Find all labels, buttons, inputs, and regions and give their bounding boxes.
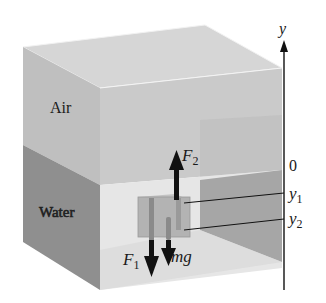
back-wall-air bbox=[200, 115, 282, 180]
block-inner-bar-left bbox=[149, 198, 154, 240]
f1-subscript: 1 bbox=[133, 258, 139, 272]
y1-label: y1 bbox=[287, 184, 303, 206]
f2-subscript: 2 bbox=[192, 154, 198, 168]
y2-label: y2 bbox=[287, 209, 303, 231]
origin-label: 0 bbox=[289, 157, 297, 174]
block-inner-bar-top bbox=[176, 198, 181, 230]
f2-symbol: F bbox=[181, 146, 193, 165]
y2-symbol: y bbox=[287, 209, 297, 228]
y2-subscript: 2 bbox=[297, 217, 303, 231]
f1-symbol: F bbox=[122, 250, 134, 269]
buoyancy-diagram: Air Water F2 F1 mg y 0 y1 y2 bbox=[0, 0, 326, 303]
y1-subscript: 1 bbox=[297, 192, 303, 206]
y-axis-label: y bbox=[277, 20, 287, 38]
air-label: Air bbox=[50, 99, 72, 116]
y1-symbol: y bbox=[287, 184, 297, 203]
mg-label: mg bbox=[171, 247, 192, 266]
block-inner-bar-right bbox=[166, 217, 171, 240]
block bbox=[138, 197, 190, 237]
water-label: Water bbox=[39, 204, 74, 220]
